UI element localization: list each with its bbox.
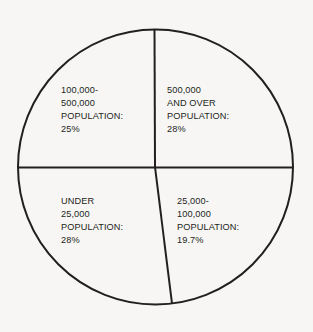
slice-label-line: 25,000 [61, 208, 123, 221]
slice-label-line: 500,000 [167, 84, 229, 97]
slice-label-500000-and-over: 500,000 AND OVER POPULATION: 28% [167, 84, 229, 136]
slice-label-line: 100,000 [177, 208, 239, 221]
slice-value: 25% [61, 123, 123, 136]
slice-label-line: 500,000 [61, 97, 123, 110]
slice-label-line: POPULATION: [61, 221, 123, 234]
pie-chart-graphic [0, 0, 313, 332]
slice-value: 19.7% [177, 234, 239, 247]
slice-label-line: POPULATION: [167, 110, 229, 123]
slice-label-line: UNDER [61, 195, 123, 208]
pie-chart: 100,000- 500,000 POPULATION: 25% 500,000… [0, 0, 313, 332]
slice-label-line: 25,000- [177, 195, 239, 208]
slice-label-line: 100,000- [61, 84, 123, 97]
slice-label-100000-500000: 100,000- 500,000 POPULATION: 25% [61, 84, 123, 136]
slice-label-line: AND OVER [167, 97, 229, 110]
slice-value: 28% [61, 234, 123, 247]
slice-label-under-25000: UNDER 25,000 POPULATION: 28% [61, 195, 123, 247]
pie-divider-vertical-upper [155, 30, 156, 168]
slice-label-25000-100000: 25,000- 100,000 POPULATION: 19.7% [177, 195, 239, 247]
slice-label-line: POPULATION: [61, 110, 123, 123]
slice-value: 28% [167, 123, 229, 136]
slice-label-line: POPULATION: [177, 221, 239, 234]
